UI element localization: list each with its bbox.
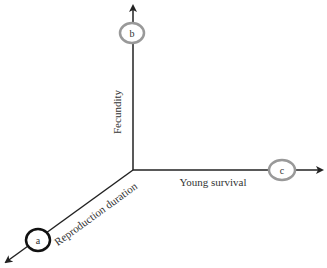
fecundity-label: Fecundity [111,90,123,134]
svg-text:c: c [280,165,285,176]
young-survival-label: Young survival [179,176,246,188]
node-b: b [120,23,144,43]
svg-text:b: b [130,28,135,39]
node-c: c [269,160,295,180]
reproduction-duration-label: Reproduction duration [52,179,140,247]
trait-axes-diagram: b c a Fecundity Young survival Reproduct… [0,0,327,268]
node-a: a [26,229,50,251]
reproduction-duration-axis [6,170,133,262]
svg-text:a: a [36,235,41,246]
